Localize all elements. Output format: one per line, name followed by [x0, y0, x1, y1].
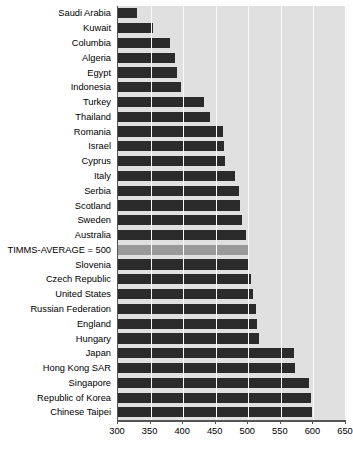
category-label-row: Chinese Taipei — [0, 405, 114, 420]
category-label-row: Singapore — [0, 376, 114, 391]
bar — [118, 67, 177, 77]
category-label-row: Sweden — [0, 213, 114, 228]
category-label: Algeria — [82, 53, 111, 63]
x-axis-tick — [312, 420, 313, 424]
bar-row — [118, 390, 345, 405]
category-label-row: England — [0, 316, 114, 331]
bar-row — [118, 316, 345, 331]
x-axis-tick-label: 450 — [207, 426, 223, 436]
gridline — [346, 6, 347, 420]
category-label: United States — [55, 289, 111, 299]
bar — [118, 53, 175, 63]
bar-row — [118, 287, 345, 302]
bar-row — [118, 257, 345, 272]
category-label-row: Hong Kong SAR — [0, 361, 114, 376]
x-axis-tick-label: 550 — [272, 426, 288, 436]
bar-row — [118, 65, 345, 80]
category-label: Turkey — [83, 97, 111, 107]
x-axis-line — [117, 420, 345, 422]
bar-row — [118, 109, 345, 124]
category-label-row: Slovenia — [0, 257, 114, 272]
category-label-row: Saudi Arabia — [0, 6, 114, 21]
bar — [118, 97, 204, 107]
category-label-row: Thailand — [0, 109, 114, 124]
category-label-row: TIMMS-AVERAGE = 500 — [0, 243, 114, 258]
gridline — [151, 6, 152, 420]
category-label: Republic of Korea — [37, 393, 111, 403]
bar-row — [118, 139, 345, 154]
x-axis-tick — [215, 420, 216, 424]
bar-row — [118, 213, 345, 228]
category-label-row: Israel — [0, 139, 114, 154]
bar-row — [118, 169, 345, 184]
category-label-row: Scotland — [0, 198, 114, 213]
category-label-row: Czech Republic — [0, 272, 114, 287]
bar-row — [118, 331, 345, 346]
plot-area — [117, 6, 345, 420]
bar — [118, 171, 235, 181]
bar — [118, 156, 225, 166]
bar-row — [118, 346, 345, 361]
bar-rows — [118, 6, 345, 420]
bar-row — [118, 21, 345, 36]
x-axis-tick — [182, 420, 183, 424]
category-label-row: Hungary — [0, 331, 114, 346]
bar — [118, 141, 224, 151]
x-axis-tick-label: 500 — [240, 426, 256, 436]
category-label-row: Indonesia — [0, 80, 114, 95]
category-label-row: Algeria — [0, 50, 114, 65]
category-label-row: Serbia — [0, 183, 114, 198]
bar-row — [118, 243, 345, 258]
category-label: Hungary — [76, 334, 111, 344]
x-axis-tick — [345, 420, 346, 424]
gridline — [313, 6, 314, 420]
category-label: Indonesia — [71, 82, 111, 92]
category-label: Kuwait — [83, 23, 111, 33]
category-label: Scotland — [75, 201, 111, 211]
category-label: TIMMS-AVERAGE = 500 — [8, 245, 111, 255]
category-label-row: Russian Federation — [0, 302, 114, 317]
category-label-row: Columbia — [0, 36, 114, 51]
category-label: Hong Kong SAR — [43, 363, 111, 373]
bar — [118, 8, 137, 18]
x-axis-tick-label: 300 — [109, 426, 125, 436]
category-label: Australia — [75, 230, 111, 240]
bar — [118, 274, 251, 284]
bar-row — [118, 361, 345, 376]
gridline — [281, 6, 282, 420]
bar-row — [118, 183, 345, 198]
category-label: Italy — [94, 171, 111, 181]
bar — [118, 304, 256, 314]
category-label: Serbia — [84, 186, 111, 196]
bar — [118, 186, 239, 196]
category-label-row: Turkey — [0, 95, 114, 110]
category-label-row: Romania — [0, 124, 114, 139]
category-label-row: Republic of Korea — [0, 390, 114, 405]
bar-row — [118, 6, 345, 21]
bar — [118, 112, 210, 122]
category-label: Israel — [88, 141, 111, 151]
bar-row — [118, 80, 345, 95]
gridline — [183, 6, 184, 420]
category-label: Columbia — [72, 38, 111, 48]
x-axis-tick-label: 600 — [305, 426, 321, 436]
bar-row — [118, 95, 345, 110]
category-label-row: Australia — [0, 228, 114, 243]
x-axis-tick — [150, 420, 151, 424]
category-label-row: United States — [0, 287, 114, 302]
x-axis-tick-label: 350 — [142, 426, 158, 436]
bar — [118, 230, 246, 240]
gridline — [216, 6, 217, 420]
x-axis-tick — [247, 420, 248, 424]
bar-row — [118, 50, 345, 65]
bar-row — [118, 124, 345, 139]
category-label: Russian Federation — [30, 304, 111, 314]
category-axis-labels: Saudi ArabiaKuwaitColumbiaAlgeriaEgyptIn… — [0, 6, 114, 420]
bar-row — [118, 228, 345, 243]
bar — [118, 348, 294, 358]
category-label: Romania — [74, 127, 111, 137]
bar — [118, 126, 223, 136]
x-axis-tick-label: 650 — [337, 426, 353, 436]
bar — [118, 333, 259, 343]
category-label: Chinese Taipei — [50, 407, 111, 417]
